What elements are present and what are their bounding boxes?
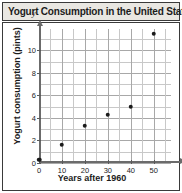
y-axis-tick-mark bbox=[37, 118, 41, 119]
gridline-horizontal bbox=[39, 39, 171, 40]
chart-title-bar: Yogurt Consumption in the United States bbox=[2, 2, 180, 21]
x-axis-tick-mark bbox=[108, 160, 109, 164]
x-axis-tick-label: 30 bbox=[104, 166, 112, 175]
y-axis-tick-label: 6 bbox=[32, 91, 36, 100]
y-axis-tick-mark bbox=[37, 140, 41, 141]
data-point bbox=[83, 124, 88, 129]
data-point bbox=[60, 143, 65, 148]
x-axis-line bbox=[39, 161, 181, 163]
gridline-vertical bbox=[50, 29, 51, 163]
x-axis-tick-label: 0 bbox=[37, 166, 41, 175]
gridline-vertical bbox=[108, 29, 109, 163]
data-point bbox=[37, 157, 42, 162]
y-axis-arrow-icon bbox=[37, 20, 43, 26]
y-axis-variable-label: y bbox=[32, 9, 36, 18]
y-axis-tick-label: 10 bbox=[28, 46, 36, 55]
gridline-horizontal bbox=[39, 62, 171, 63]
gridline-vertical bbox=[154, 29, 155, 163]
gridline-vertical bbox=[142, 29, 143, 163]
plot-area: y x 024681001020304050 bbox=[39, 29, 171, 163]
y-axis-tick-mark bbox=[37, 50, 41, 51]
gridline-horizontal bbox=[39, 73, 171, 74]
y-axis-tick-label: 4 bbox=[32, 113, 36, 122]
x-axis-tick-mark bbox=[62, 160, 63, 164]
y-axis-tick-label: 0 bbox=[32, 159, 36, 168]
x-axis-arrow-icon bbox=[180, 158, 182, 164]
gridline-vertical bbox=[73, 29, 74, 163]
gridline-vertical bbox=[85, 29, 86, 163]
x-axis-tick-mark bbox=[131, 160, 132, 164]
y-axis-tick-mark bbox=[37, 95, 41, 96]
x-axis-tick-label: 40 bbox=[127, 166, 135, 175]
gridline-horizontal bbox=[39, 118, 171, 119]
y-axis-title: Yogurt consumption (pints) bbox=[12, 26, 22, 146]
x-axis-tick-mark bbox=[85, 160, 86, 164]
x-axis-tick-label: 10 bbox=[58, 166, 66, 175]
y-axis-tick-label: 8 bbox=[32, 68, 36, 77]
gridline-horizontal bbox=[39, 50, 171, 51]
gridline-horizontal bbox=[39, 107, 171, 108]
gridline-horizontal bbox=[39, 140, 171, 141]
x-axis-tick-label: 20 bbox=[81, 166, 89, 175]
x-axis-tick-mark bbox=[154, 160, 155, 164]
gridline-horizontal bbox=[39, 152, 171, 153]
y-axis-tick-label: 2 bbox=[32, 136, 36, 145]
gridline-vertical bbox=[96, 29, 97, 163]
data-point bbox=[129, 104, 134, 109]
y-axis-line bbox=[39, 25, 41, 163]
gridline-horizontal bbox=[39, 163, 171, 164]
data-point bbox=[106, 112, 111, 117]
chart-widget: Yogurt Consumption in the United States … bbox=[0, 0, 182, 193]
x-axis-tick-label: 50 bbox=[150, 166, 158, 175]
gridline-vertical bbox=[119, 29, 120, 163]
data-point bbox=[152, 31, 157, 36]
y-axis-tick-mark bbox=[37, 73, 41, 74]
gridline-horizontal bbox=[39, 84, 171, 85]
chart-frame: Yogurt consumption (pints) Years after 1… bbox=[2, 22, 180, 191]
gridline-vertical bbox=[131, 29, 132, 163]
gridline-vertical bbox=[165, 29, 166, 163]
gridline-horizontal bbox=[39, 129, 171, 130]
gridline-horizontal bbox=[39, 95, 171, 96]
